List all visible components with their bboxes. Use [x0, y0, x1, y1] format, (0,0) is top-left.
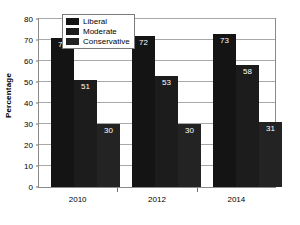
- bar-moderate-2010: 51: [74, 80, 97, 187]
- y-axis-tick-label: 20: [24, 141, 33, 150]
- bar-value-label: 73: [213, 36, 236, 45]
- bar-liberal-2012: 72: [132, 36, 155, 187]
- y-axis-tick-label: 10: [24, 162, 33, 171]
- y-axis-tick-label: 50: [24, 78, 33, 87]
- legend: LiberalModerateConservative: [62, 14, 135, 49]
- x-axis-group-label: 2010: [69, 195, 87, 204]
- bar-moderate-2014: 58: [236, 65, 259, 187]
- bar-conservative-2012: 30: [178, 124, 201, 187]
- y-axis-tick-label: 0: [29, 183, 33, 192]
- legend-label: Liberal: [83, 17, 107, 26]
- bar-liberal-2014: 73: [213, 34, 236, 187]
- x-axis-tick-mark: [117, 188, 118, 192]
- bar-value-label: 31: [259, 124, 282, 133]
- bar-conservative-2014: 31: [259, 122, 282, 187]
- y-axis-tick-labels: 80706050403020100: [14, 18, 36, 188]
- y-axis-tick-label: 70: [24, 36, 33, 45]
- legend-item: Conservative: [66, 37, 130, 46]
- x-axis: 201020122014: [38, 188, 276, 218]
- y-axis-title-text: Percentage: [5, 72, 14, 117]
- bar-value-label: 51: [74, 82, 97, 91]
- bar-value-label: 58: [236, 67, 259, 76]
- legend-label: Conservative: [83, 37, 130, 46]
- legend-label: Moderate: [83, 27, 117, 36]
- y-axis-tick-label: 40: [24, 99, 33, 108]
- legend-swatch: [66, 18, 79, 25]
- bar-liberal-2010: 71: [51, 38, 74, 187]
- legend-swatch: [66, 38, 79, 45]
- y-axis-tick-label: 80: [24, 15, 33, 24]
- y-axis-tick-label: 60: [24, 57, 33, 66]
- legend-item: Liberal: [66, 17, 130, 26]
- y-axis-tick-label: 30: [24, 120, 33, 129]
- bar-value-label: 30: [97, 126, 120, 135]
- x-axis-group-label: 2012: [148, 195, 166, 204]
- bar-value-label: 30: [178, 126, 201, 135]
- x-axis-group-label: 2014: [227, 195, 245, 204]
- bar-group: 735831: [201, 19, 282, 187]
- bar-moderate-2012: 53: [155, 76, 178, 187]
- bar-value-label: 53: [155, 78, 178, 87]
- bar-chart: Percentage 80706050403020100 71513072533…: [0, 0, 300, 225]
- bar-value-label: 72: [132, 38, 155, 47]
- bar-conservative-2010: 30: [97, 124, 120, 187]
- legend-swatch: [66, 28, 79, 35]
- x-axis-tick-mark: [197, 188, 198, 192]
- legend-item: Moderate: [66, 27, 130, 36]
